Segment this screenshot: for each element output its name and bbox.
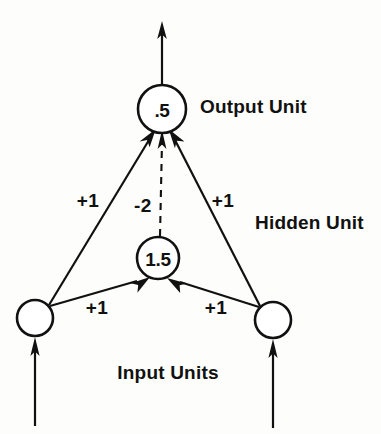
input-arrow-right (268, 339, 277, 428)
edge-input-left-to-hidden-arrowhead (131, 277, 150, 293)
output-unit-label: Output Unit (200, 96, 307, 117)
input-unit-right[interactable] (255, 302, 291, 338)
weight-label-input-right-to-output: +1 (212, 190, 235, 211)
edge-input-right-to-output (169, 129, 260, 306)
hidden-unit-value: 1.5 (145, 249, 171, 270)
input-units-label: Input Units (117, 362, 218, 383)
hidden-unit[interactable]: 1.5 (137, 237, 179, 279)
network-diagram-canvas: .5 1.5 +1 +1 -2 +1 +1 (0, 0, 381, 434)
weight-label-input-left-to-hidden: +1 (86, 297, 109, 318)
input-unit-left[interactable] (17, 300, 53, 336)
input-unit-left-circle[interactable] (17, 300, 53, 336)
output-arrow (157, 21, 167, 86)
edge-hidden-to-output (158, 130, 167, 236)
edge-input-left-to-output (49, 129, 156, 305)
weight-label-hidden-to-output: -2 (134, 195, 152, 216)
edge-input-left-to-output-line (49, 140, 149, 305)
weight-label-input-left-to-output: +1 (77, 190, 100, 211)
output-unit-value: .5 (154, 100, 170, 121)
hidden-unit-label: Hidden Unit (255, 212, 364, 233)
weight-label-input-right-to-hidden: +1 (205, 297, 228, 318)
input-unit-right-circle[interactable] (255, 302, 291, 338)
edges-group (49, 129, 260, 307)
network-diagram: .5 1.5 +1 +1 -2 +1 +1 (0, 0, 381, 434)
units-group: .5 1.5 (17, 85, 291, 338)
input-arrow-left (30, 337, 39, 426)
output-unit[interactable]: .5 (138, 85, 186, 133)
edge-hidden-to-output-line (160, 142, 162, 236)
edge-input-right-to-output-line (175, 140, 260, 306)
edge-input-right-to-hidden-arrowhead (167, 278, 187, 293)
